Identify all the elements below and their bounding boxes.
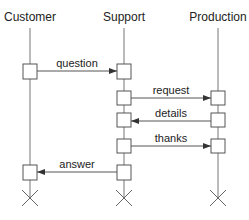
activation-support-4	[117, 139, 131, 153]
activation-production-1	[211, 91, 225, 105]
message-label-answer: answer	[59, 158, 95, 170]
sequence-diagram: Customer Support Production question req…	[0, 0, 249, 220]
activation-production-3	[211, 139, 225, 153]
activation-support-5	[117, 165, 131, 180]
activation-support-3	[117, 113, 131, 127]
message-label-question: question	[56, 57, 98, 69]
activation-support-2	[117, 91, 131, 105]
actor-support: Support	[103, 10, 146, 24]
actor-production: Production	[189, 10, 246, 24]
activation-customer-2	[23, 165, 37, 180]
activation-customer-1	[23, 64, 37, 79]
message-label-request: request	[153, 84, 190, 96]
activation-support-1	[117, 64, 131, 79]
actor-customer: Customer	[4, 10, 56, 24]
message-label-details: details	[155, 107, 187, 119]
activation-production-2	[211, 113, 225, 127]
message-label-thanks: thanks	[155, 132, 188, 144]
